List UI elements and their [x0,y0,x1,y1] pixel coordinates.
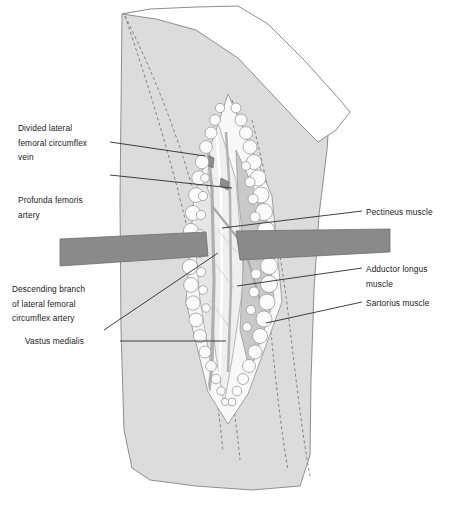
surgical-anatomy-figure: Divided lateral femoral circumflex vein … [0,0,453,519]
label-divided-lateral-femoral-circumflex-vein: Divided lateral femoral circumflex vein [18,121,122,165]
label-sartorius-muscle: Sartorius muscle [366,296,452,311]
retractor-right [236,229,390,260]
label-vastus-medialis: Vastus medialis [25,334,125,349]
label-adductor-longus-muscle: Adductor longus muscle [366,262,452,291]
label-descending-branch-lateral-femoral-circumflex-artery: Descending branch of lateral femoral cir… [12,282,122,326]
anatomical-illustration [0,0,453,519]
label-pectineus-muscle: Pectineus muscle [366,205,452,220]
label-profunda-femoris-artery: Profunda femoris artery [18,193,122,222]
